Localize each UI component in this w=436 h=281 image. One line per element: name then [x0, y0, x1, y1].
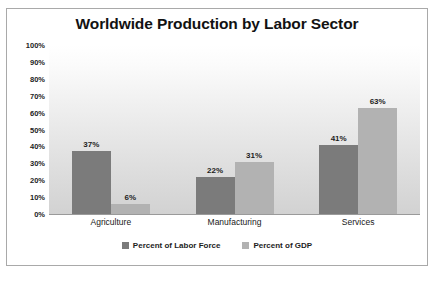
- bar-group: 22%31%: [196, 45, 274, 214]
- bar-pair: 37%6%: [72, 45, 150, 214]
- legend-swatch-icon: [242, 242, 249, 249]
- y-axis-tick: 20%: [9, 176, 45, 185]
- bar-value-label: 37%: [83, 140, 99, 149]
- y-axis-tick: 30%: [9, 159, 45, 168]
- x-axis-line: [49, 214, 420, 215]
- bar-services-percent-of-labor-force[interactable]: 41%: [319, 145, 358, 214]
- bar-value-label: 22%: [207, 166, 223, 175]
- category-label-manufacturing: Manufacturing: [173, 217, 297, 227]
- legend-item-percent-of-gdp[interactable]: Percent of GDP: [242, 241, 312, 250]
- bar-services-percent-of-gdp[interactable]: 63%: [358, 108, 397, 214]
- bar-agriculture-percent-of-gdp[interactable]: 6%: [111, 204, 150, 214]
- bar-manufacturing-percent-of-labor-force[interactable]: 22%: [196, 177, 235, 214]
- category-label-agriculture: Agriculture: [49, 217, 173, 227]
- bar-manufacturing-percent-of-gdp[interactable]: 31%: [235, 162, 274, 214]
- y-axis: 0%10%20%30%40%50%60%70%80%90%100%: [9, 45, 45, 214]
- bar-group: 37%6%: [72, 45, 150, 214]
- legend-swatch-icon: [122, 242, 129, 249]
- bar-group: 41%63%: [319, 45, 397, 214]
- category-axis: AgricultureManufacturingServices: [49, 217, 420, 233]
- bar-groups: 37%6%22%31%41%63%: [49, 45, 420, 214]
- y-axis-tick: 60%: [9, 108, 45, 117]
- y-axis-tick: 40%: [9, 142, 45, 151]
- bar-value-label: 63%: [370, 97, 386, 106]
- legend-item-percent-of-labor-force[interactable]: Percent of Labor Force: [122, 241, 221, 250]
- y-axis-tick: 70%: [9, 91, 45, 100]
- bar-pair: 22%31%: [196, 45, 274, 214]
- bar-value-label: 31%: [246, 151, 262, 160]
- bar-value-label: 41%: [331, 134, 347, 143]
- chart-title: Worldwide Production by Labor Sector: [7, 15, 427, 33]
- y-axis-tick: 0%: [9, 210, 45, 219]
- chart-legend: Percent of Labor ForcePercent of GDP: [7, 241, 427, 250]
- bar-value-label: 6%: [125, 193, 137, 202]
- y-axis-tick: 90%: [9, 57, 45, 66]
- y-axis-tick: 50%: [9, 125, 45, 134]
- bar-pair: 41%63%: [319, 45, 397, 214]
- legend-label: Percent of Labor Force: [133, 241, 221, 250]
- legend-label: Percent of GDP: [253, 241, 312, 250]
- bar-agriculture-percent-of-labor-force[interactable]: 37%: [72, 151, 111, 214]
- chart-card: Worldwide Production by Labor Sector 0%1…: [6, 8, 428, 266]
- category-label-services: Services: [296, 217, 420, 227]
- y-axis-tick: 10%: [9, 193, 45, 202]
- y-axis-tick: 80%: [9, 74, 45, 83]
- y-axis-tick: 100%: [9, 41, 45, 50]
